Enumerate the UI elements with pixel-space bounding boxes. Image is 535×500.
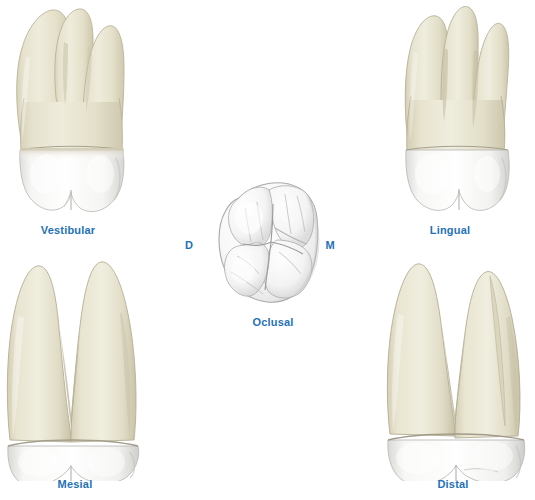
mesial-tooth-illustration bbox=[0, 256, 150, 481]
orientation-marker-distal: D bbox=[182, 239, 196, 251]
view-label-vestibular: Vestibular bbox=[8, 224, 128, 236]
mesial-roots bbox=[7, 262, 136, 442]
tooth-view-lingual bbox=[390, 2, 525, 222]
lingual-crown bbox=[406, 146, 509, 210]
view-label-distal: Distal bbox=[378, 478, 528, 490]
lingual-tooth-illustration bbox=[390, 2, 525, 222]
tooth-view-occlusal bbox=[215, 178, 331, 310]
vestibular-crown bbox=[20, 146, 124, 211]
view-label-mesial: Mesial bbox=[0, 478, 150, 490]
mesial-crown bbox=[8, 440, 139, 481]
vestibular-roots bbox=[17, 9, 124, 152]
tooth-view-distal bbox=[378, 256, 533, 481]
dental-anatomy-figure: Vestibular bbox=[0, 0, 535, 500]
view-label-lingual: Lingual bbox=[390, 224, 510, 236]
orientation-marker-mesial: M bbox=[322, 239, 338, 251]
distal-roots bbox=[387, 264, 520, 438]
vestibular-tooth-illustration bbox=[8, 2, 138, 222]
tooth-view-mesial bbox=[0, 256, 150, 481]
distal-crown bbox=[388, 434, 525, 481]
lingual-roots bbox=[405, 6, 509, 152]
tooth-view-vestibular bbox=[8, 2, 138, 222]
occlusal-tooth-illustration bbox=[215, 178, 331, 310]
view-label-occlusal: Oclusal bbox=[215, 316, 331, 328]
distal-tooth-illustration bbox=[378, 256, 533, 481]
